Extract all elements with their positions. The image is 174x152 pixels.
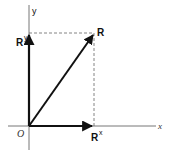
vector-ry-label: R: [16, 37, 24, 48]
vector-r-label: R: [97, 27, 105, 38]
vector-r: [29, 35, 93, 126]
x-axis-label: x: [157, 121, 162, 131]
origin-label: O: [17, 128, 24, 139]
vector-rx-sup: x: [99, 129, 103, 136]
y-axis-label: y: [32, 6, 37, 16]
vector-diagram: y x O R R y R x: [0, 0, 174, 152]
vector-ry-sup: y: [24, 34, 28, 42]
vector-rx-label: R: [91, 132, 99, 143]
